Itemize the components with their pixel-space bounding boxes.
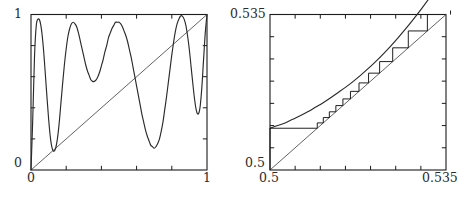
- left-y-axis-max-label: 1: [14, 8, 22, 21]
- right-map-curve: [270, 0, 446, 128]
- left-y-axis-min-label: 0: [14, 157, 22, 170]
- right-plot-group: [270, 0, 451, 170]
- full-map-panel: 1 0 0 1: [0, 0, 236, 200]
- right-identity-line: [270, 15, 446, 171]
- left-plot-svg: [0, 0, 236, 200]
- figure-container: 1 0 0 1 0.535 0.5 0.5 0.535: [0, 0, 472, 200]
- left-x-axis-min-label: 0: [27, 172, 35, 185]
- right-x-axis-min-label: 0.5: [259, 172, 279, 185]
- left-plot-group: [31, 15, 207, 171]
- right-y-axis-min-label: 0.5: [245, 157, 265, 170]
- zoomed-cobweb-panel: 0.535 0.5 0.5 0.535: [236, 0, 472, 200]
- right-x-axis-max-label: 0.535: [422, 172, 458, 185]
- left-identity-line: [31, 15, 207, 171]
- right-y-axis-max-label: 0.535: [230, 8, 266, 21]
- left-x-axis-max-label: 1: [203, 172, 211, 185]
